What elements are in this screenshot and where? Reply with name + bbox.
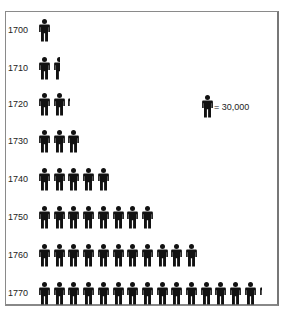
pictograph-row: 1710 <box>6 57 278 81</box>
person-icon <box>113 206 124 229</box>
person-icon <box>142 206 153 229</box>
icon-strip <box>39 57 282 81</box>
pictograph-row: 1730 <box>6 130 278 154</box>
person-icon <box>245 282 256 305</box>
year-label: 1770 <box>8 288 34 298</box>
icon-strip <box>39 130 282 154</box>
person-icon <box>83 168 94 191</box>
person-icon <box>39 57 50 80</box>
person-icon <box>39 244 50 267</box>
person-icon <box>142 282 153 305</box>
person-icon <box>98 282 109 305</box>
person-icon <box>54 93 65 116</box>
legend: = 30,000 <box>202 95 249 119</box>
person-icon <box>127 244 138 267</box>
person-icon <box>54 57 60 80</box>
icon-strip <box>39 168 282 192</box>
person-icon <box>68 130 79 153</box>
year-label: 1740 <box>8 174 34 184</box>
person-icon <box>83 282 94 305</box>
person-icon <box>127 282 138 305</box>
year-label: 1720 <box>8 99 34 109</box>
icon-strip <box>39 19 282 43</box>
pictograph-row: 1750 <box>6 206 278 230</box>
person-icon <box>201 282 212 305</box>
person-icon <box>171 282 182 305</box>
person-icon <box>98 244 109 267</box>
person-icon <box>68 282 79 305</box>
year-label: 1750 <box>8 212 34 222</box>
person-icon <box>39 206 50 229</box>
person-icon <box>39 282 50 305</box>
year-label: 1760 <box>8 250 34 260</box>
person-icon <box>68 206 79 229</box>
person-icon <box>113 282 124 305</box>
person-icon <box>54 282 65 305</box>
year-label: 1700 <box>8 25 34 35</box>
person-icon <box>83 206 94 229</box>
person-icon <box>157 244 168 267</box>
person-icon <box>98 206 109 229</box>
person-icon <box>54 206 65 229</box>
person-icon <box>39 19 50 42</box>
person-icon <box>113 244 124 267</box>
pictograph-row: 1770 <box>6 282 278 306</box>
person-icon <box>39 93 50 116</box>
person-icon <box>215 282 226 305</box>
person-icon <box>202 95 213 118</box>
icon-strip <box>39 206 282 230</box>
year-label: 1710 <box>8 63 34 73</box>
year-label: 1730 <box>8 136 34 146</box>
person-icon <box>157 282 168 305</box>
person-icon <box>230 282 241 305</box>
person-icon <box>54 168 65 191</box>
person-icon <box>142 244 153 267</box>
pictograph-row: 1760 <box>6 244 278 268</box>
pictograph-row: 1740 <box>6 168 278 192</box>
person-icon <box>39 168 50 191</box>
person-icon <box>54 244 65 267</box>
chart-frame: 17001710172017301740175017601770 = 30,00… <box>5 11 279 306</box>
person-icon <box>39 130 50 153</box>
person-icon <box>54 130 65 153</box>
person-icon <box>186 282 197 305</box>
pictograph-row: 1700 <box>6 19 278 43</box>
person-icon <box>83 244 94 267</box>
person-icon <box>171 244 182 267</box>
person-icon <box>260 282 262 305</box>
legend-label: = 30,000 <box>214 102 249 112</box>
icon-strip <box>39 244 282 268</box>
person-icon <box>68 93 70 116</box>
person-icon <box>127 206 138 229</box>
person-icon <box>68 168 79 191</box>
person-icon <box>186 244 197 267</box>
person-icon <box>68 244 79 267</box>
person-icon <box>98 168 109 191</box>
icon-strip <box>39 282 282 306</box>
